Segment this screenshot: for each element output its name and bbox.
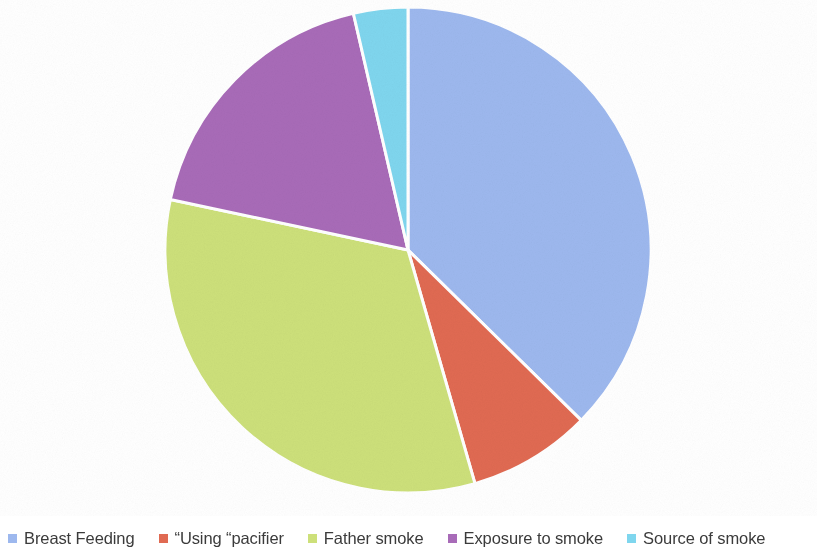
pie-svg [0, 0, 817, 516]
legend-item-label: Father smoke [324, 530, 424, 547]
legend-swatch-icon [448, 534, 457, 543]
legend-item[interactable]: Breast Feeding [8, 530, 135, 547]
legend-item-label: Source of smoke [643, 530, 765, 547]
legend-item[interactable]: Father smoke [308, 530, 424, 547]
legend-item[interactable]: Exposure to smoke [448, 530, 604, 547]
legend-item[interactable]: Source of smoke [627, 530, 765, 547]
legend-swatch-icon [627, 534, 636, 543]
legend-swatch-icon [8, 534, 17, 543]
legend-item-label: “Using “pacifier [175, 530, 284, 547]
legend-swatch-icon [159, 534, 168, 543]
pie-slices-group [165, 7, 651, 493]
pie-plot-area [0, 0, 817, 516]
legend-item[interactable]: “Using “pacifier [159, 530, 284, 547]
legend-item-label: Breast Feeding [24, 530, 135, 547]
chart-legend: Breast Feeding“Using “pacifierFather smo… [0, 524, 817, 552]
pie-chart-figure: Breast Feeding“Using “pacifierFather smo… [0, 0, 817, 552]
legend-item-label: Exposure to smoke [464, 530, 604, 547]
legend-swatch-icon [308, 534, 317, 543]
